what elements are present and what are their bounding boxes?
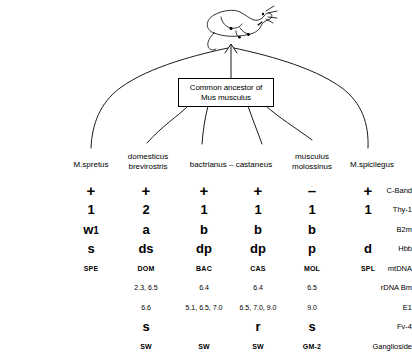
cell-rdna-bm-mol: 6.5 xyxy=(307,284,317,291)
cell-mtdna-spe: SPE xyxy=(84,264,99,271)
cell-hbb-cas: dp xyxy=(250,241,266,256)
cell-b2m-dom: a xyxy=(142,221,149,236)
table-row: Hbbsdsdpdppd xyxy=(0,239,412,259)
cell-thy-1-spl: 1 xyxy=(364,202,371,217)
cell-fv-4-cas: r xyxy=(255,319,260,334)
table-row: C-Band++++–+ xyxy=(0,180,412,200)
branch-bactrianus xyxy=(202,106,208,144)
ancestor-line-2: Mus musculus xyxy=(201,93,251,102)
cell-c-band-spe: + xyxy=(87,181,96,198)
cell-hbb-bac: dp xyxy=(196,241,212,256)
branch-domesticus xyxy=(147,106,188,143)
cell-thy-1-mol: 1 xyxy=(308,202,315,217)
common-ancestor-box: Common ancestor of Mus musculus xyxy=(178,78,274,107)
cell-hbb-mol: p xyxy=(308,241,316,256)
taxon-label-musculus: musculusmolossinus xyxy=(292,152,332,171)
cell-rdna-bm-dom: 2.3, 6.5 xyxy=(134,284,157,291)
cell-hbb-spe: s xyxy=(87,241,94,256)
cell-b2m-mol: b xyxy=(308,221,316,236)
cell-e1-dom: 6.6 xyxy=(141,303,151,310)
cell-c-band-mol: – xyxy=(308,181,316,198)
taxon-label-bactrianus: bactrianus – castaneus xyxy=(190,160,272,170)
table-row: Thy-1121111 xyxy=(0,200,412,220)
cell-thy-1-spe: 1 xyxy=(87,202,94,217)
cell-ganglioside-mol: GM-2 xyxy=(303,342,321,349)
cell-mtdna-spl: SPL xyxy=(361,264,375,271)
table-row: E16.65.1, 6.5, 7.06.5, 7.0, 9.09.0 xyxy=(0,297,412,317)
cell-mtdna-cas: CAS xyxy=(250,264,265,271)
cell-ganglioside-dom: SW xyxy=(140,342,152,349)
table-row: rDNA Bm2.3, 6.56.46.46.5 xyxy=(0,278,412,298)
taxon-label-domesticus: domesticusbrevirostris xyxy=(128,152,168,171)
row-label: Fv-4 xyxy=(346,322,412,331)
taxon-label-line: molossinus xyxy=(292,162,332,172)
taxon-label-line: musculus xyxy=(292,152,332,162)
cell-rdna-bm-bac: 6.4 xyxy=(199,284,209,291)
cell-fv-4-mol: s xyxy=(308,319,315,334)
cell-thy-1-cas: 1 xyxy=(254,202,261,217)
row-label: Hbb xyxy=(346,244,412,253)
row-label: E1 xyxy=(346,302,412,311)
taxon-label-line: brevirostris xyxy=(128,162,168,172)
table-row: mtDNASPEDOMBACCASMOLSPL xyxy=(0,258,412,278)
row-label: B2m xyxy=(346,224,412,233)
row-label: mtDNA xyxy=(346,263,412,272)
cell-c-band-bac: + xyxy=(200,181,209,198)
cell-c-band-cas: + xyxy=(254,181,263,198)
cell-ganglioside-bac: SW xyxy=(198,342,210,349)
taxon-label-line: domesticus xyxy=(128,152,168,162)
cell-mtdna-bac: BAC xyxy=(196,264,212,271)
taxon-label-line: M.spicilegus xyxy=(350,160,394,170)
cell-rdna-bm-cas: 6.4 xyxy=(253,284,263,291)
cell-b2m-cas: b xyxy=(254,221,262,236)
cell-mtdna-mol: MOL xyxy=(304,264,320,271)
cell-thy-1-dom: 2 xyxy=(142,202,149,217)
mouse-sketch-icon xyxy=(207,6,277,50)
cell-c-band-dom: + xyxy=(142,181,151,198)
cell-mtdna-dom: DOM xyxy=(138,264,155,271)
taxon-label-spicilegus: M.spicilegus xyxy=(350,160,394,170)
cell-e1-cas: 6.5, 7.0, 9.0 xyxy=(240,303,277,310)
cell-fv-4-dom: s xyxy=(142,319,149,334)
row-label: rDNA Bm xyxy=(346,283,412,292)
row-label: C-Band xyxy=(346,185,412,194)
cell-c-band-spl: + xyxy=(364,181,373,198)
cell-b2m-bac: b xyxy=(200,221,208,236)
cell-b2m-spe: w1 xyxy=(83,221,99,236)
figure-canvas: Common ancestor of Mus musculus M.spretu… xyxy=(0,0,412,355)
cell-thy-1-bac: 1 xyxy=(200,202,207,217)
table-row: Fv-4srs xyxy=(0,317,412,337)
cell-e1-mol: 9.0 xyxy=(307,303,317,310)
cell-ganglioside-cas: SW xyxy=(252,342,264,349)
branch-castaneus xyxy=(248,106,262,144)
table-row: GangliosideSWSWSWGM-2 xyxy=(0,336,412,355)
cell-e1-bac: 5.1, 6.5, 7.0 xyxy=(186,303,223,310)
taxon-label-line: M.spretus xyxy=(73,160,108,170)
taxon-label-spretus: M.spretus xyxy=(73,160,108,170)
table-row: B2mw1abbb xyxy=(0,219,412,239)
cell-hbb-dom: ds xyxy=(138,241,153,256)
taxon-label-line: bactrianus – castaneus xyxy=(190,160,272,170)
ancestor-line-1: Common ancestor of xyxy=(190,83,262,92)
row-label: Ganglioside xyxy=(346,341,412,350)
row-label: Thy-1 xyxy=(346,205,412,214)
cell-hbb-spl: d xyxy=(364,241,372,256)
branch-musculus xyxy=(266,106,312,140)
character-table: C-Band++++–+Thy-1121111B2mw1abbbHbbsdsdp… xyxy=(0,180,412,355)
